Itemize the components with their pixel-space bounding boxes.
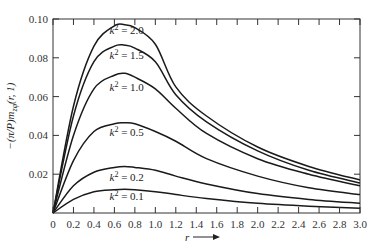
svg-text:−(π/P)mzφ(r, 1): −(π/P)mzφ(r, 1) bbox=[4, 82, 19, 149]
y-tick-label: 0.06 bbox=[29, 91, 49, 103]
curve bbox=[53, 73, 360, 213]
x-tick-label: 2.2 bbox=[271, 218, 285, 230]
x-tick-label: 0.8 bbox=[128, 218, 142, 230]
x-axis-title: r bbox=[185, 231, 220, 243]
curve-label: k2 = 1.0 bbox=[110, 80, 145, 93]
x-axis-label: r bbox=[185, 231, 190, 243]
curve-label: k2 = 0.2 bbox=[110, 170, 144, 183]
x-tick-label: 2.8 bbox=[333, 218, 347, 230]
curves bbox=[53, 24, 360, 213]
curve-labels: k2 = 2.0k2 = 1.5k2 = 1.0k2 = 0.5k2 = 0.2… bbox=[110, 23, 145, 203]
x-tick-label: 1.0 bbox=[148, 218, 162, 230]
arrow-head-icon bbox=[213, 234, 220, 240]
x-tick-label: 3.0 bbox=[353, 218, 367, 230]
x-tick-label: 1.8 bbox=[230, 218, 244, 230]
x-tick-label: 1.4 bbox=[189, 218, 203, 230]
y-tick-label: 0.10 bbox=[29, 13, 49, 25]
x-tick-label: 0.6 bbox=[108, 218, 122, 230]
x-tick-label: 0.2 bbox=[67, 218, 81, 230]
x-tick-label: 2.4 bbox=[292, 218, 306, 230]
x-tick-label: 2.6 bbox=[312, 218, 326, 230]
x-tick-label: 0.4 bbox=[87, 218, 101, 230]
curve-label: k2 = 0.1 bbox=[110, 189, 144, 202]
x-tick-label: 0 bbox=[50, 218, 56, 230]
x-tick-label: 1.2 bbox=[169, 218, 183, 230]
y-tick-label: 0.02 bbox=[29, 168, 48, 180]
chart: k2 = 2.0k2 = 1.5k2 = 1.0k2 = 0.5k2 = 0.2… bbox=[0, 0, 379, 251]
y-tick-label: 0.04 bbox=[29, 129, 49, 141]
x-tick-label: 1.6 bbox=[210, 218, 224, 230]
curve-label: k2 = 0.5 bbox=[110, 125, 145, 138]
y-axis-title: −(π/P)mzφ(r, 1) bbox=[4, 82, 19, 149]
y-tick-label: 0.08 bbox=[29, 52, 49, 64]
curve-label: k2 = 1.5 bbox=[110, 48, 145, 61]
curve bbox=[53, 189, 360, 213]
x-tick-label: 2.0 bbox=[251, 218, 265, 230]
